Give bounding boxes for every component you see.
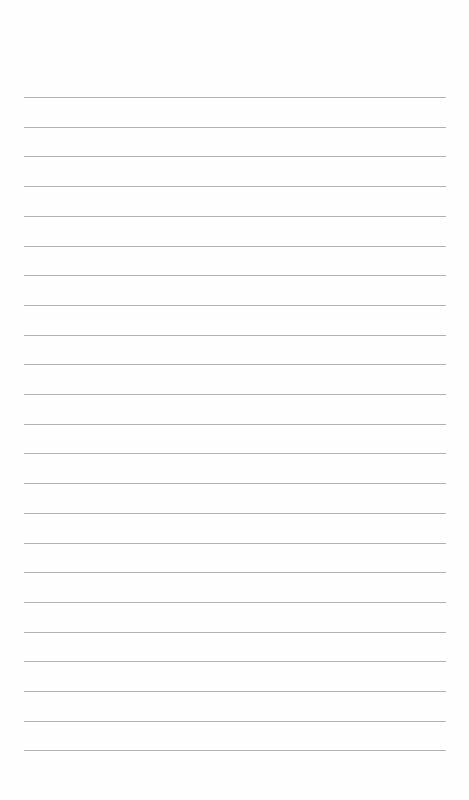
ruled-line [24,424,446,425]
ruled-line [24,661,446,662]
ruled-line [24,246,446,247]
ruled-line [24,691,446,692]
lined-page [0,0,469,800]
ruled-line [24,305,446,306]
ruled-line [24,513,446,514]
ruled-line [24,216,446,217]
ruled-line [24,750,446,751]
ruled-line [24,572,446,573]
ruled-line [24,335,446,336]
ruled-line [24,453,446,454]
ruled-line [24,364,446,365]
ruled-line [24,127,446,128]
ruled-line [24,394,446,395]
ruled-line [24,543,446,544]
ruled-line [24,602,446,603]
ruled-line [24,721,446,722]
ruled-line [24,156,446,157]
ruled-line [24,275,446,276]
ruled-line [24,97,446,98]
ruled-line [24,632,446,633]
ruled-line [24,186,446,187]
ruled-line [24,483,446,484]
